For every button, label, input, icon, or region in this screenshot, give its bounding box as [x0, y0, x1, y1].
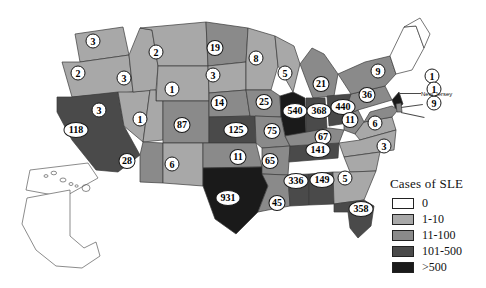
state-value-MO: 75 [264, 123, 281, 139]
state-WI [275, 36, 300, 92]
state-value-CA: 118 [64, 122, 89, 138]
state-value-NE: 14 [211, 95, 228, 111]
figure-canvas: 3 2 3 2 19 8 5 21 9 118 3 1 1 3 25 540 3… [0, 0, 486, 288]
state-value-MI: 21 [313, 76, 330, 92]
state-value-VA: 6 [368, 116, 383, 131]
legend: Cases of SLE 0 1-10 11-100 101-500 >500 [380, 176, 484, 277]
legend-item-4: >500 [392, 261, 484, 274]
legend-swatch-2 [392, 230, 414, 241]
legend-swatch-4 [392, 262, 414, 273]
legend-label-0: 0 [422, 196, 428, 211]
legend-label-3: 101-500 [422, 244, 462, 259]
legend-swatch-3 [392, 246, 414, 257]
state-value-TX: 931 [216, 190, 241, 206]
legend-item-2: 11-100 [392, 229, 484, 242]
state-value-UT: 1 [133, 112, 148, 127]
state-value-OR: 2 [71, 66, 86, 81]
legend-label-2: 11-100 [422, 228, 456, 243]
state-value-SD: 3 [206, 68, 221, 83]
state-value-IL: 540 [283, 103, 308, 119]
state-value-NV: 3 [92, 103, 107, 118]
state-AZ [140, 142, 163, 183]
state-value-NY: 9 [371, 64, 386, 79]
new-jersey-leader-line [400, 93, 421, 94]
new-jersey-label: New Jersey [421, 91, 452, 97]
state-value-CO: 87 [174, 117, 191, 133]
legend-item-1: 1-10 [392, 213, 484, 226]
state-value-MD: 9 [427, 96, 442, 111]
state-value-OK: 11 [230, 149, 247, 165]
state-value-IN: 368 [307, 103, 332, 119]
state-value-MS: 336 [284, 173, 309, 189]
legend-label-1: 1-10 [422, 212, 444, 227]
state-value-WY: 1 [165, 82, 180, 97]
state-value-FL: 358 [349, 201, 374, 217]
legend-item-3: 101-500 [392, 245, 484, 258]
state-value-NM: 6 [165, 157, 180, 172]
legend-swatch-1 [392, 214, 414, 225]
state-value-WA: 3 [86, 34, 101, 49]
legend-swatch-0 [392, 198, 414, 209]
state-value-TN: 141 [306, 142, 331, 158]
legend-title: Cases of SLE [390, 176, 484, 192]
state-value-KS: 125 [224, 122, 249, 138]
state-value-GA: 5 [338, 171, 353, 186]
legend-item-0: 0 [392, 197, 484, 210]
legend-label-4: >500 [422, 260, 447, 275]
state-WY [156, 66, 209, 101]
state-value-WV: 11 [342, 112, 359, 128]
state-value-AZ: 28 [119, 153, 136, 169]
state-value-PA: 36 [359, 87, 376, 103]
state-value-ND: 19 [207, 40, 224, 56]
state-value-MN: 8 [249, 51, 264, 66]
state-value-ID: 3 [117, 71, 132, 86]
state-value-NC: 3 [377, 139, 392, 154]
state-value-LA: 45 [269, 195, 286, 211]
inset-alaska [22, 190, 100, 268]
state-value-AR: 65 [262, 153, 279, 169]
state-value-AL: 149 [310, 172, 335, 188]
state-value-MT: 2 [149, 45, 164, 60]
state-value-WI: 5 [278, 66, 293, 81]
state-value-IA: 25 [256, 94, 273, 110]
